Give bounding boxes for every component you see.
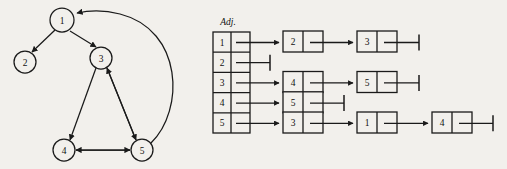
adjacency-row-index-2: 2 <box>220 58 225 68</box>
graph-nodes: 1 2 3 4 5 <box>14 8 153 161</box>
edge-5-to-1-curved <box>77 11 173 143</box>
adjacency-row-index-5: 5 <box>220 118 225 128</box>
list-node-row5-item1[interactable]: 3 <box>283 112 323 133</box>
graph-node-5[interactable]: 5 <box>131 139 153 161</box>
list-node-row5-item3-value: 4 <box>440 118 445 128</box>
node-2-label: 2 <box>23 58 28 68</box>
directed-graph: 1 2 3 4 5 <box>14 8 173 161</box>
graph-node-4[interactable]: 4 <box>53 139 75 161</box>
adjacency-list-diagram: Adj. 1 2 3 4 5 <box>213 17 493 133</box>
list-node-row3-item1[interactable]: 4 <box>283 72 323 93</box>
list-node-row4-item1-value: 5 <box>291 98 296 108</box>
graph-and-adjacency-list-figure: 1 2 3 4 5 <box>0 0 507 169</box>
list-node-row1-item2[interactable]: 3 <box>357 31 397 52</box>
list-node-row5-item2-value: 1 <box>365 118 370 128</box>
node-4-label: 4 <box>62 146 67 156</box>
node-1-label: 1 <box>60 16 65 26</box>
edge-5-to-3 <box>107 68 136 140</box>
adjacency-row-index-1: 1 <box>220 38 225 48</box>
adjacency-row-index-4: 4 <box>220 98 225 108</box>
node-5-label: 5 <box>140 146 145 156</box>
list-node-row3-item1-value: 4 <box>291 78 296 88</box>
list-node-row3-item2-value: 5 <box>365 78 370 88</box>
graph-node-1[interactable]: 1 <box>50 8 74 32</box>
adjacency-chain-row-3: 4 5 <box>236 72 419 93</box>
graph-edges <box>32 11 173 150</box>
figure-root: 1 2 3 4 5 <box>0 0 507 169</box>
edge-3-to-4 <box>70 68 96 140</box>
edge-1-to-3 <box>70 31 96 47</box>
adjacency-chain-row-4: 5 <box>236 92 344 113</box>
list-node-row1-item1[interactable]: 2 <box>283 31 323 52</box>
adjacency-chain-row-1: 2 3 <box>236 31 419 52</box>
list-node-row1-item1-value: 2 <box>291 37 296 47</box>
list-node-row5-item3[interactable]: 4 <box>432 112 472 133</box>
adjacency-row-index-3: 3 <box>220 78 225 88</box>
adjacency-chain-row-5: 3 1 4 <box>236 112 493 133</box>
edge-1-to-2 <box>32 30 55 52</box>
adjacency-table-header-label: Adj. <box>219 17 236 27</box>
graph-node-2[interactable]: 2 <box>14 51 36 73</box>
node-3-label: 3 <box>99 54 104 64</box>
list-node-row4-item1[interactable]: 5 <box>283 92 323 113</box>
graph-node-3[interactable]: 3 <box>90 47 112 69</box>
list-node-row3-item2[interactable]: 5 <box>357 72 397 93</box>
list-node-row1-item2-value: 3 <box>365 37 370 47</box>
list-node-row5-item2[interactable]: 1 <box>357 112 397 133</box>
list-node-row5-item1-value: 3 <box>291 118 296 128</box>
